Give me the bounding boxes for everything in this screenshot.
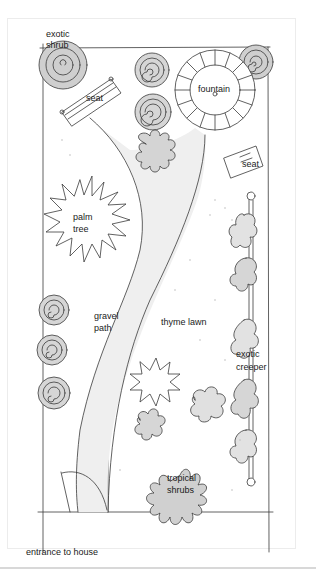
label-exotic-shrub: exotic shrub bbox=[46, 29, 70, 51]
label-line: tree bbox=[73, 223, 93, 235]
label-seat-top: seat bbox=[86, 93, 103, 103]
rose-shrub-icon bbox=[135, 53, 169, 87]
label-line: shrub bbox=[46, 40, 70, 51]
label-palm-tree: palm tree bbox=[73, 211, 93, 235]
label-line: gravel bbox=[94, 310, 119, 322]
label-line: exotic bbox=[236, 348, 267, 361]
caption-entrance-to-house: entrance to house bbox=[26, 547, 98, 557]
divider bbox=[0, 567, 316, 569]
label-line: palm bbox=[73, 211, 93, 223]
rose-shrub-icon bbox=[39, 295, 69, 325]
label-fountain: fountain bbox=[198, 84, 230, 94]
label-tropical-shrubs: tropical shrubs bbox=[167, 472, 196, 496]
label-gravel-path: gravel path bbox=[94, 310, 119, 334]
label-line: shrubs bbox=[167, 484, 196, 496]
label-seat-right: seat bbox=[242, 159, 259, 169]
rose-shrub-icon bbox=[135, 94, 171, 130]
label-line: path bbox=[94, 322, 119, 334]
label-line: exotic bbox=[46, 29, 70, 40]
exotic-creeper-icon bbox=[229, 192, 258, 486]
label-exotic-creeper: exotic creeper bbox=[236, 348, 267, 374]
rose-shrub-icon bbox=[38, 377, 70, 409]
label-line: creeper bbox=[236, 361, 267, 374]
garden-plan bbox=[0, 0, 316, 576]
tropical-shrub-icon bbox=[135, 409, 165, 440]
tropical-shrub-icon bbox=[130, 358, 180, 406]
tropical-shrub-icon bbox=[191, 387, 226, 422]
label-thyme-lawn: thyme lawn bbox=[161, 317, 207, 327]
label-line: tropical bbox=[167, 472, 196, 484]
rose-shrub-icon bbox=[37, 335, 67, 365]
